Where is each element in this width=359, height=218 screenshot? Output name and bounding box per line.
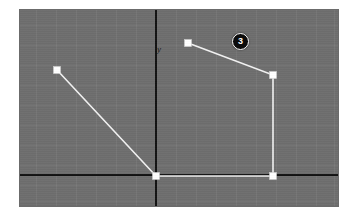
path-layer bbox=[20, 10, 338, 206]
vertex-handles[interactable] bbox=[54, 40, 277, 180]
step-number-badge[interactable]: 3 bbox=[232, 33, 249, 50]
vertex-handle[interactable] bbox=[185, 40, 192, 47]
editor-viewport[interactable]: y 3 bbox=[20, 10, 338, 206]
vertex-handle[interactable] bbox=[153, 173, 160, 180]
vertex-handle[interactable] bbox=[270, 173, 277, 180]
screenshot-root: y 3 bbox=[0, 0, 359, 218]
step-number-badge-label: 3 bbox=[238, 37, 243, 46]
vertex-handle[interactable] bbox=[270, 72, 277, 79]
vertex-handle[interactable] bbox=[54, 67, 61, 74]
polyline-path[interactable] bbox=[57, 43, 273, 176]
